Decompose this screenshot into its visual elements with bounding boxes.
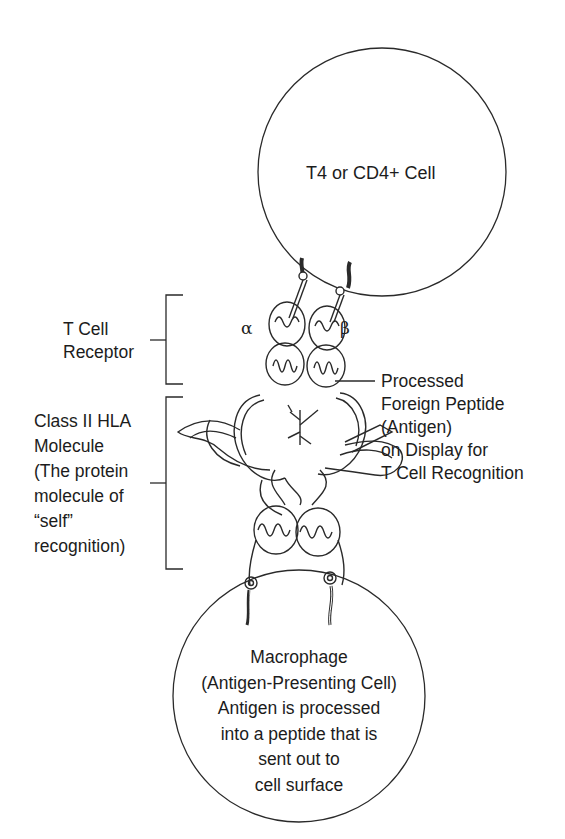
t4-cell-label-text: T4 or CD4+ Cell bbox=[306, 163, 436, 183]
hla-label: Class II HLA Molecule (The protein molec… bbox=[34, 409, 131, 559]
tcell-hla-diagram: T4 or CD4+ Cell α β T Cell Receptor Clas… bbox=[0, 0, 565, 839]
t4-cell-label: T4 or CD4+ Cell bbox=[306, 162, 436, 185]
tcr-molecule bbox=[266, 258, 350, 387]
alpha-chain-label: α bbox=[241, 318, 252, 338]
peptide-label: Processed Foreign Peptide (Antigen) on D… bbox=[381, 370, 524, 485]
tcr-label: T Cell Receptor bbox=[63, 318, 134, 363]
macrophage-label: Macrophage (Antigen-Presenting Cell) Ant… bbox=[174, 645, 424, 798]
hla-molecule bbox=[178, 393, 402, 625]
beta-chain-label: β bbox=[340, 318, 350, 338]
hla-bracket bbox=[150, 397, 183, 569]
tcr-bracket bbox=[150, 295, 183, 384]
